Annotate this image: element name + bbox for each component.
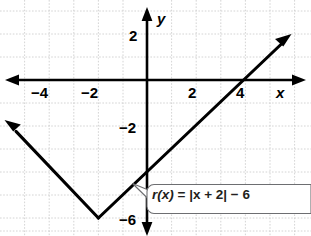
y-tick-label-neg6: −6 (119, 212, 136, 227)
x-tick-label-neg2: −2 (81, 85, 98, 100)
y-axis-top-arrowhead (142, 7, 153, 21)
y-tick-label-neg2: −2 (119, 120, 136, 135)
x-axis-right-arrowhead (292, 75, 306, 86)
x-axis-label: x (276, 85, 284, 100)
curve-right-arrowhead (275, 34, 292, 47)
y-tick-label-2: 2 (129, 28, 137, 43)
y-axis-bottom-arrowhead (142, 222, 153, 236)
y-axis-label: y (157, 11, 165, 26)
x-axis-left-arrowhead (5, 75, 19, 86)
callout-equals: = (174, 187, 189, 202)
x-tick-label-4: 4 (236, 85, 244, 100)
callout-label: r(x) = |x + 2| − 6 (152, 188, 302, 202)
x-tick-label-neg4: −4 (31, 85, 48, 100)
curve-left-ray (16, 131, 98, 218)
callout-function-name: r(x) (152, 187, 174, 202)
graph-figure: −4 −2 2 4 2 −2 −6 x y r(x) = |x + 2| − 6 (0, 0, 311, 236)
callout-expression: |x + 2| − 6 (189, 187, 250, 202)
x-tick-label-2: 2 (188, 85, 196, 100)
